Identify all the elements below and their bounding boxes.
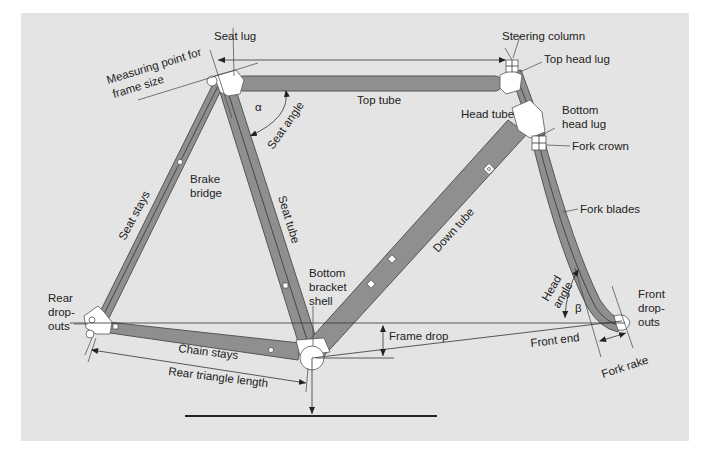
label-bb-shell-1: Bottom [309, 267, 345, 279]
label-alpha: α [255, 101, 262, 113]
label-rear-dropouts-3: outs [48, 320, 70, 332]
label-frame-drop: Frame drop [389, 330, 448, 342]
label-front-dropouts-1: Front [638, 288, 666, 300]
label-rear-dropouts-1: Rear [48, 292, 73, 304]
label-rear-dropouts-2: drop- [48, 306, 75, 318]
label-fork-crown: Fork crown [572, 140, 629, 152]
label-top-tube: Top tube [357, 94, 401, 106]
top-head-lug [500, 70, 522, 94]
label-seat-lug: Seat lug [214, 30, 256, 42]
label-bottom-head-lug-2: head lug [562, 118, 606, 130]
label-brake-bridge-1: Brake [190, 173, 220, 185]
label-beta: β [575, 302, 582, 314]
bicycle-frame-diagram: Seat lug Measuring point for frame size … [0, 0, 702, 452]
label-front-dropouts-2: drop- [638, 302, 665, 314]
top-tube [236, 76, 502, 91]
label-brake-bridge-2: bridge [190, 187, 222, 199]
label-head-tube: Head tube [461, 108, 514, 120]
label-steering-column: Steering column [502, 30, 585, 42]
label-bb-shell-2: bracket [309, 281, 348, 293]
label-bb-shell-3: shell [309, 295, 333, 307]
label-bottom-head-lug-1: Bottom [562, 104, 598, 116]
brake-bridge-fitting [177, 159, 182, 164]
label-front-dropouts-3: outs [638, 316, 660, 328]
label-fork-blades: Fork blades [580, 203, 640, 215]
label-top-head-lug: Top head lug [544, 53, 610, 65]
